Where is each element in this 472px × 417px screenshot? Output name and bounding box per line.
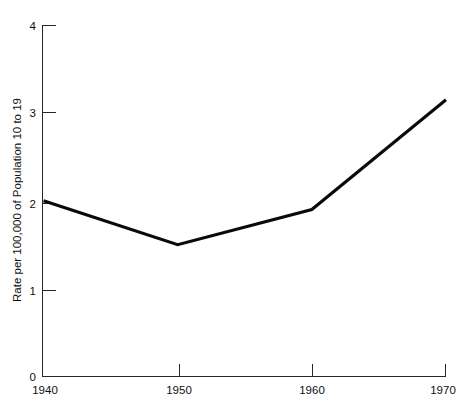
x-tick-label-1970: 1970 (430, 384, 456, 396)
y-tick-label-4: 4 (30, 20, 37, 32)
x-tick-label-1940: 1940 (32, 384, 58, 396)
y-tick-label-2: 2 (30, 198, 36, 210)
y-tick-label-3: 3 (30, 107, 36, 119)
y-axis-title: Rate per 100,000 of Population 10 to 19 (11, 98, 23, 302)
y-tick-label-1: 1 (30, 285, 36, 297)
y-tick-label-0: 0 (30, 371, 36, 383)
chart-canvas: 4 3 2 1 0 1940 1950 1960 1970 Rate per 1… (0, 0, 472, 417)
x-tick-label-1960: 1960 (299, 384, 325, 396)
line-chart-figure: 4 3 2 1 0 1940 1950 1960 1970 Rate per 1… (0, 0, 472, 417)
x-tick-label-1950: 1950 (166, 384, 192, 396)
